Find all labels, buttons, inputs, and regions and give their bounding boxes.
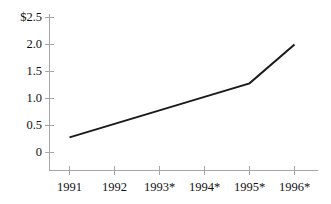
y-axis-label-2-5: $2.5 xyxy=(0,11,42,24)
y-axis-label-1-5: 1.5 xyxy=(0,65,42,78)
data-series-line xyxy=(70,45,295,138)
chart-plot-area xyxy=(0,0,331,204)
y-axis-label-0: 0 xyxy=(0,146,42,159)
line-chart: $2.5 2.0 1.5 1.0 0.5 0 1991 1992 1993* 1… xyxy=(0,0,331,204)
x-axis-label-1996: 1996* xyxy=(264,181,325,194)
y-axis-label-2-0: 2.0 xyxy=(0,38,42,51)
y-axis-label-1-0: 1.0 xyxy=(0,92,42,105)
y-axis-label-0-5: 0.5 xyxy=(0,119,42,132)
